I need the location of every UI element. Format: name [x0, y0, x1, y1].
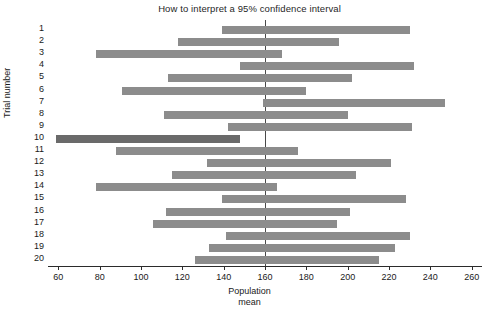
x-axis-tick: [182, 266, 183, 270]
interval-row: 12: [48, 158, 482, 169]
interval-row: 17: [48, 219, 482, 230]
interval-row: 1: [48, 25, 482, 36]
x-axis-title-line2: mean: [0, 297, 499, 308]
x-axis-tick-label: 260: [464, 272, 479, 282]
y-axis-title: Trial number: [2, 68, 12, 118]
confidence-interval-bar: [228, 123, 412, 131]
x-axis-tick: [141, 266, 142, 270]
chart-title: How to interpret a 95% confidence interv…: [0, 3, 499, 14]
x-axis-tick: [348, 266, 349, 270]
confidence-interval-bar: [122, 87, 306, 95]
confidence-interval-bar: [166, 208, 350, 216]
x-axis-tick: [100, 266, 101, 270]
confidence-interval-bar: [222, 26, 410, 34]
trial-number-label: 2: [39, 35, 44, 46]
confidence-interval-bar: [168, 74, 352, 82]
x-axis-tick-label: 80: [95, 272, 105, 282]
trial-number-label: 7: [39, 96, 44, 107]
x-axis-tick: [265, 266, 266, 270]
trial-number-label: 5: [39, 71, 44, 82]
interval-row: 5: [48, 73, 482, 84]
trial-number-label: 3: [39, 47, 44, 58]
trial-number-label: 13: [34, 168, 44, 179]
x-axis-tick-label: 120: [175, 272, 190, 282]
trial-number-label: 4: [39, 59, 44, 70]
confidence-interval-bar: [222, 195, 406, 203]
x-axis-title: Population mean: [0, 286, 499, 308]
x-axis-tick-label: 240: [423, 272, 438, 282]
trial-number-label: 8: [39, 108, 44, 119]
x-axis-tick-label: 160: [257, 272, 272, 282]
trial-number-label: 12: [34, 156, 44, 167]
x-axis-tick-label: 220: [381, 272, 396, 282]
confidence-interval-bar: [96, 50, 282, 58]
trial-number-label: 11: [35, 144, 44, 155]
interval-row: 4: [48, 61, 482, 72]
x-axis-tick-label: 200: [340, 272, 355, 282]
chart-root: How to interpret a 95% confidence interv…: [0, 0, 499, 326]
trial-number-label: 10: [34, 132, 44, 143]
plot-area: 1234567891011121314151617181920: [48, 24, 482, 266]
x-axis-tick: [224, 266, 225, 270]
confidence-interval-bar: [116, 147, 298, 155]
interval-row: 19: [48, 243, 482, 254]
x-axis-tick: [472, 266, 473, 270]
trial-number-label: 1: [39, 23, 44, 34]
interval-row: 9: [48, 122, 482, 133]
confidence-interval-bar: [96, 183, 278, 191]
interval-row: 6: [48, 86, 482, 97]
x-axis-tick-label: 140: [216, 272, 231, 282]
interval-row: 13: [48, 170, 482, 181]
x-axis-tick: [430, 266, 431, 270]
interval-row: 18: [48, 231, 482, 242]
interval-row: 11: [48, 146, 482, 157]
x-axis-tick-label: 180: [299, 272, 314, 282]
confidence-interval-bar: [195, 256, 379, 264]
x-axis-tick: [389, 266, 390, 270]
confidence-interval-bar: [207, 159, 391, 167]
confidence-interval-bar: [226, 232, 410, 240]
interval-row: 16: [48, 207, 482, 218]
confidence-interval-bar: [56, 135, 240, 143]
interval-row: 10: [48, 134, 482, 145]
trial-number-label: 19: [34, 241, 44, 252]
x-axis-tick: [58, 266, 59, 270]
interval-row: 8: [48, 110, 482, 121]
confidence-interval-bar: [178, 38, 339, 46]
confidence-interval-bar: [209, 244, 395, 252]
interval-row: 7: [48, 98, 482, 109]
x-axis-tick-label: 60: [53, 272, 63, 282]
confidence-interval-bar: [164, 111, 348, 119]
x-axis-title-line1: Population: [228, 286, 271, 296]
trial-number-label: 16: [34, 205, 44, 216]
x-axis: 6080100120140160180200220240260: [48, 266, 482, 267]
interval-row: 2: [48, 37, 482, 48]
trial-number-label: 15: [34, 192, 44, 203]
confidence-interval-bar: [172, 171, 356, 179]
confidence-interval-bar: [240, 62, 414, 70]
trial-number-label: 9: [39, 120, 44, 131]
interval-row: 14: [48, 182, 482, 193]
trial-number-label: 17: [34, 217, 44, 228]
confidence-interval-bar: [263, 99, 445, 107]
trial-number-label: 14: [34, 180, 44, 191]
trial-number-label: 18: [34, 229, 44, 240]
trial-number-label: 6: [39, 84, 44, 95]
interval-row: 15: [48, 194, 482, 205]
x-axis-tick-label: 100: [133, 272, 148, 282]
interval-row: 3: [48, 49, 482, 60]
interval-row: 20: [48, 255, 482, 266]
x-axis-tick: [306, 266, 307, 270]
trial-number-label: 20: [34, 253, 44, 264]
confidence-interval-bar: [153, 220, 337, 228]
